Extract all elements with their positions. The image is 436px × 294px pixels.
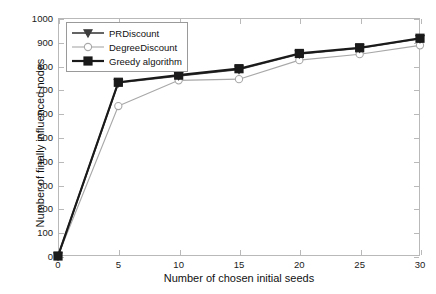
y-axis-tick: [414, 233, 419, 234]
legend-item-prdiscount[interactable]: PRDiscount: [71, 26, 182, 40]
y-axis-tick-label: 200: [0, 203, 58, 214]
y-axis-tick: [414, 186, 419, 187]
y-axis-tick-label: 1000: [0, 13, 58, 24]
y-axis-tick-label: 500: [0, 132, 58, 143]
x-axis-title: Number of chosen initial seeds: [58, 272, 420, 284]
x-axis-tick: [59, 19, 60, 24]
x-axis-tick: [119, 250, 120, 255]
y-axis-tick-label: 800: [0, 60, 58, 71]
x-axis-tick: [300, 19, 301, 24]
legend-label: DegreeDiscount: [105, 42, 177, 53]
legend-label: Greedy algorithm: [105, 56, 182, 67]
chart-figure: 01002003004005006007008009001000 0510152…: [0, 0, 436, 294]
y-axis-tick: [59, 114, 64, 115]
y-axis-tick-label: 400: [0, 155, 58, 166]
x-axis-tick: [180, 250, 181, 255]
y-axis-tick: [414, 67, 419, 68]
y-axis-tick: [414, 114, 419, 115]
legend-marker-square-icon: [71, 54, 105, 68]
y-axis-tick-label: 700: [0, 84, 58, 95]
x-axis-tick: [240, 250, 241, 255]
x-axis-tick: [421, 19, 422, 24]
y-axis-tick-label: 600: [0, 108, 58, 119]
x-axis-tick: [240, 19, 241, 24]
x-axis-tick-label: 15: [234, 259, 245, 270]
chart-legend: PRDiscountDegreeDiscountGreedy algorithm: [66, 22, 188, 72]
x-axis-tick: [361, 250, 362, 255]
y-axis-tick: [414, 90, 419, 91]
y-axis-tick-label: 300: [0, 179, 58, 190]
y-axis-tick: [59, 209, 64, 210]
y-axis-tick: [59, 138, 64, 139]
legend-marker-triangle-down-icon: [71, 26, 105, 40]
y-axis-tick: [414, 209, 419, 210]
y-axis-tick: [414, 162, 419, 163]
y-axis-tick: [59, 186, 64, 187]
legend-item-degreediscount[interactable]: DegreeDiscount: [71, 40, 182, 54]
y-axis-tick: [59, 90, 64, 91]
legend-label: PRDiscount: [105, 28, 159, 39]
x-axis-tick-label: 20: [294, 259, 305, 270]
x-axis-tick: [59, 250, 60, 255]
y-axis-tick: [59, 67, 64, 68]
x-axis-tick: [300, 250, 301, 255]
legend-marker-circle-icon: [71, 40, 105, 54]
x-axis-tick-label: 10: [173, 259, 184, 270]
y-axis-tick-label: 900: [0, 36, 58, 47]
y-axis-title: Number of finally influenced nodes: [34, 43, 46, 243]
y-axis-tick: [414, 257, 419, 258]
x-axis-tick: [421, 250, 422, 255]
x-axis-tick-label: 5: [116, 259, 121, 270]
y-axis-tick-label: 100: [0, 227, 58, 238]
y-axis-tick-label: 0: [0, 251, 58, 262]
y-axis-tick: [414, 43, 419, 44]
x-axis-tick-label: 25: [354, 259, 365, 270]
y-axis-tick: [59, 162, 64, 163]
y-axis-tick: [59, 257, 64, 258]
x-axis-tick-label: 30: [415, 259, 426, 270]
y-axis-tick: [414, 19, 419, 20]
y-axis-tick: [414, 138, 419, 139]
x-axis-tick-label: 0: [55, 259, 60, 270]
y-axis-tick: [59, 43, 64, 44]
y-axis-tick: [59, 233, 64, 234]
legend-item-greedy-algorithm[interactable]: Greedy algorithm: [71, 54, 182, 68]
x-axis-tick: [361, 19, 362, 24]
